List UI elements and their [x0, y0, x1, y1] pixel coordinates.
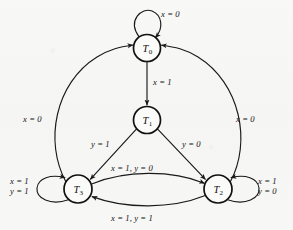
edge-label-t2-self-line2: y = 0 [258, 187, 277, 197]
edge-label-t2-t3: x = 1, y = 1 [111, 213, 153, 224]
edge-label-t0-self: x = 0 [161, 9, 180, 20]
edge-t1-t2 [157, 129, 205, 179]
edge-t2-t0 [162, 45, 241, 182]
edge-t0-self [135, 10, 161, 37]
state-diagram: T0 T1 T3 T2 x = 0 x = 1 y = 1 y = 0 x = … [0, 0, 293, 230]
edge-label-t3-self: x = 1 y = 1 [10, 177, 29, 197]
edge-label-t1-t2: y = 0 [182, 139, 201, 150]
edge-label-t0-t1: x = 1 [153, 77, 172, 88]
edge-label-t3-t2: x = 1, y = 0 [111, 163, 153, 174]
edge-label-t3-t0: x = 0 [23, 114, 42, 125]
edge-label-t2-self: x = 1 y = 0 [258, 177, 277, 197]
edge-t3-t2 [92, 173, 205, 184]
edge-t3-t0 [55, 45, 133, 182]
edge-t2-t3 [92, 196, 204, 206]
edge-label-t2-t0: x = 0 [236, 114, 255, 125]
edge-label-t1-t3: y = 1 [91, 139, 110, 150]
edge-label-t3-self-line2: y = 1 [10, 187, 29, 197]
